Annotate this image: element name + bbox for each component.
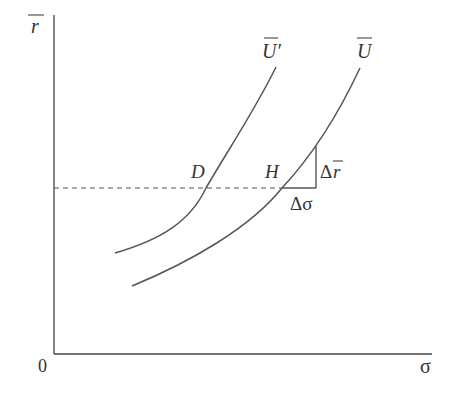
origin-label: 0 — [38, 356, 47, 376]
delta-sigma-label: Δσ — [290, 193, 312, 214]
point-h-label: H — [264, 161, 280, 182]
curve-u-prime — [115, 67, 276, 253]
delta-r-prefix: Δ — [320, 161, 332, 182]
point-d-label: D — [190, 161, 205, 182]
curve-u-prime-label: U′ — [262, 40, 281, 62]
y-axis-label: r — [31, 15, 39, 37]
x-axis-label: σ — [420, 355, 431, 377]
diagram-canvas: r 0 σ U′ U D H Δσ Δ r — [0, 0, 455, 403]
delta-r-var: r — [333, 161, 341, 182]
curve-u-label: U — [357, 40, 373, 62]
